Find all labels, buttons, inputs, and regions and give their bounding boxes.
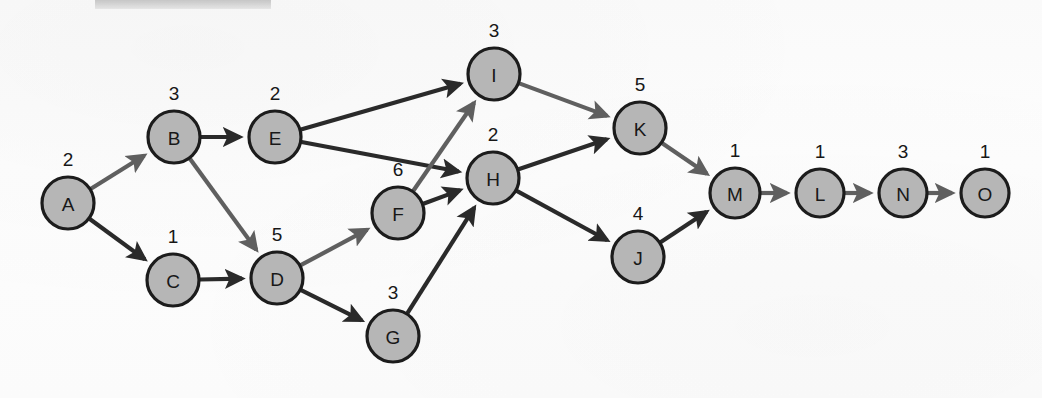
graph-node-h[interactable]: H2	[467, 124, 519, 204]
edge-e-to-i	[301, 84, 460, 130]
graph-node-m[interactable]: M1	[710, 140, 760, 218]
graph-node-o[interactable]: O1	[961, 141, 1009, 217]
edge-a-to-b	[91, 156, 144, 189]
node-weight-o: 1	[980, 141, 991, 162]
node-label-l: L	[815, 184, 826, 205]
node-weight-k: 5	[635, 74, 646, 95]
node-weight-a: 2	[63, 149, 74, 170]
edge-a-to-c	[90, 219, 145, 259]
node-weight-b: 3	[169, 83, 180, 104]
node-weight-d: 5	[272, 224, 283, 245]
node-weight-e: 2	[270, 83, 281, 104]
node-weight-l: 1	[815, 141, 826, 162]
diagram-canvas: A2B3C1D5E2F6G3H2I3J4K5L1M1N3O1	[0, 0, 1042, 398]
graph-node-c[interactable]: C1	[147, 226, 199, 306]
node-weight-i: 3	[489, 20, 500, 41]
edge-d-to-f	[301, 230, 367, 266]
node-label-i: I	[491, 65, 496, 86]
node-label-g: G	[386, 327, 401, 348]
edge-b-to-d	[190, 159, 256, 250]
graph-node-k[interactable]: K5	[614, 74, 666, 154]
node-label-j: J	[633, 248, 643, 269]
node-label-o: O	[978, 184, 993, 205]
edge-k-to-m	[662, 143, 707, 174]
node-weight-c: 1	[168, 226, 179, 247]
edge-i-to-k	[519, 83, 607, 115]
node-weight-j: 4	[633, 203, 644, 224]
node-label-d: D	[270, 269, 284, 290]
graph-node-e[interactable]: E2	[249, 83, 301, 163]
node-label-h: H	[486, 169, 500, 190]
graph-node-f[interactable]: F6	[372, 159, 424, 239]
graph-node-d[interactable]: D5	[251, 224, 303, 304]
edge-f-to-i	[413, 103, 474, 191]
graph-node-l[interactable]: L1	[796, 141, 844, 217]
edge-h-to-k	[519, 139, 607, 169]
node-weight-g: 3	[388, 282, 399, 303]
graph-node-i[interactable]: I3	[468, 20, 520, 100]
node-label-b: B	[168, 128, 181, 149]
node-weight-h: 2	[488, 124, 499, 145]
graph-node-g[interactable]: G3	[367, 282, 419, 362]
node-label-k: K	[634, 119, 647, 140]
node-label-e: E	[269, 128, 282, 149]
graph-node-b[interactable]: B3	[148, 83, 200, 163]
graph-node-j[interactable]: J4	[612, 203, 664, 283]
node-label-c: C	[166, 271, 180, 292]
node-label-m: M	[727, 184, 743, 205]
graph-node-n[interactable]: N3	[879, 141, 927, 217]
graph-node-a[interactable]: A2	[42, 149, 94, 229]
edge-f-to-h	[423, 190, 460, 204]
node-weight-n: 3	[898, 141, 909, 162]
edge-h-to-j	[517, 191, 608, 240]
node-weight-m: 1	[730, 140, 741, 161]
node-label-f: F	[392, 204, 404, 225]
edge-c-to-d	[200, 279, 242, 280]
node-label-n: N	[896, 184, 910, 205]
node-weight-f: 6	[393, 159, 404, 180]
node-label-a: A	[62, 194, 75, 215]
edge-d-to-g	[301, 290, 362, 320]
graph-svg: A2B3C1D5E2F6G3H2I3J4K5L1M1N3O1	[0, 0, 1042, 398]
edge-j-to-m	[661, 212, 707, 242]
